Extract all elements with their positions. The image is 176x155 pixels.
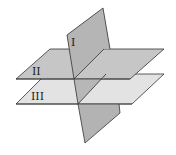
plane-III-label: III	[31, 90, 44, 103]
plane-II-label: II	[32, 65, 41, 78]
diagram-canvas: I II III	[0, 0, 176, 155]
plane-I-label: I	[71, 36, 75, 49]
three-planes-diagram: I II III	[0, 0, 176, 155]
